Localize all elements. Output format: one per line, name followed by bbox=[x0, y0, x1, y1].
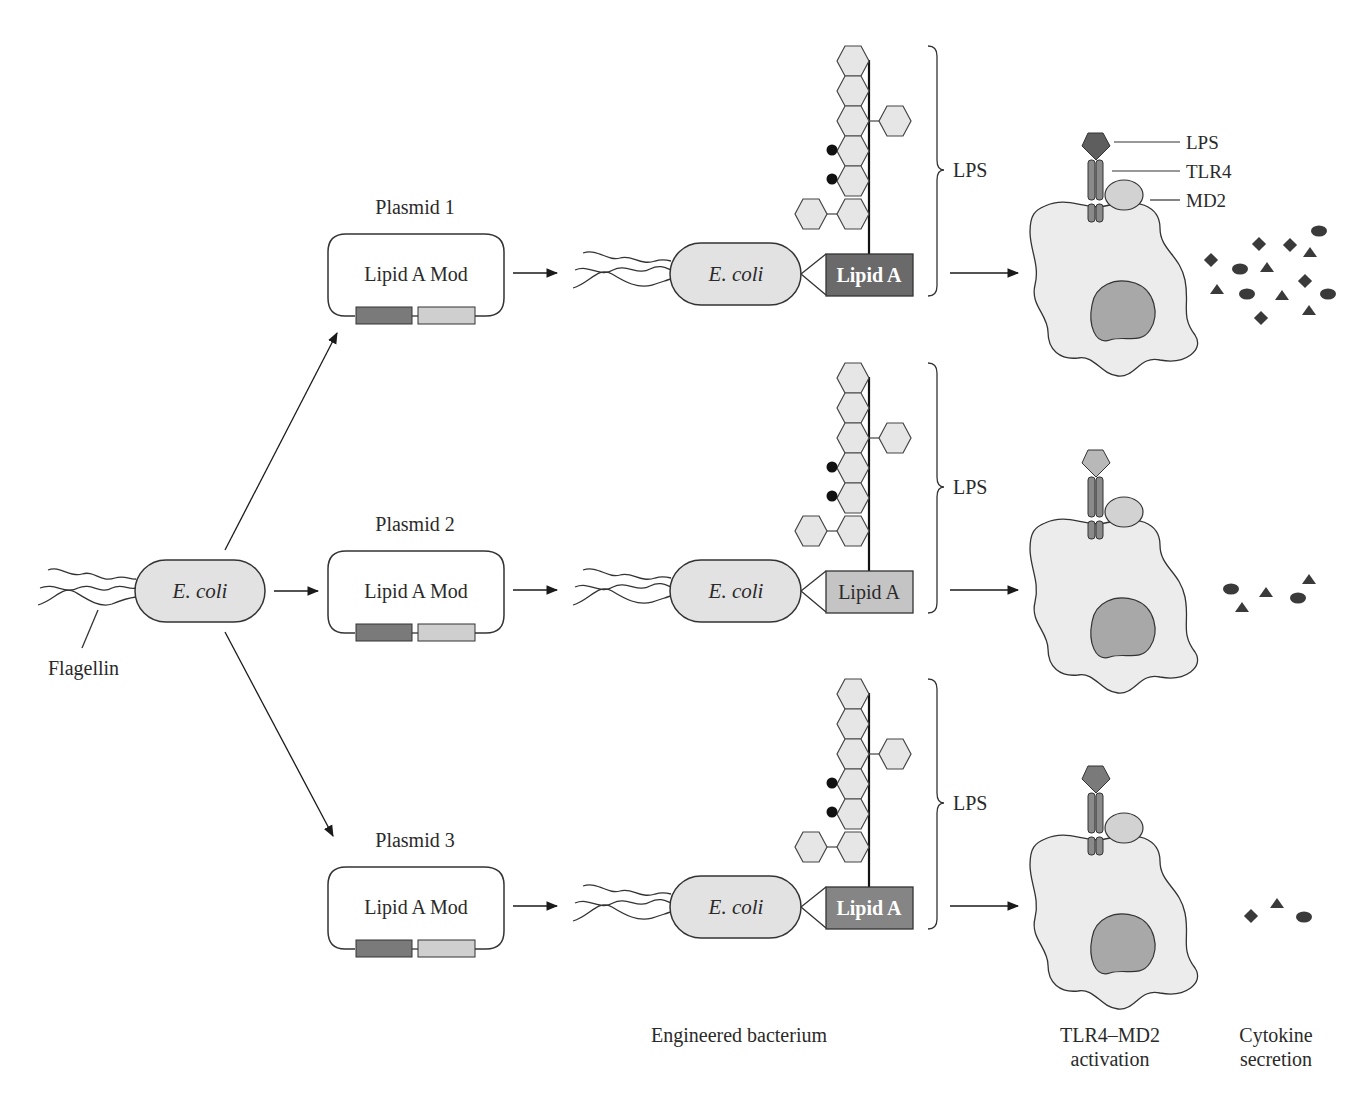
origin-ecoli: Flagellin E. coli bbox=[38, 560, 265, 680]
flagellin-label: Flagellin bbox=[48, 657, 119, 680]
membrane-connector bbox=[801, 887, 826, 928]
tlr4-receptor-icon bbox=[1088, 160, 1103, 222]
plasmid-gene-label: Lipid A Mod bbox=[364, 263, 467, 286]
membrane-connector bbox=[801, 571, 826, 612]
md2-icon bbox=[1105, 813, 1143, 843]
row-1: Plasmid 1 Lipid A Mod E. coli bbox=[328, 46, 1336, 376]
membrane-connector bbox=[801, 254, 826, 295]
engineered-bacterium-label: Engineered bacterium bbox=[651, 1024, 827, 1047]
plasmid-gene-dark bbox=[356, 940, 412, 957]
nucleus bbox=[1091, 598, 1155, 658]
row-3: Plasmid 3 Lipid A Mod E. coli bbox=[328, 679, 1312, 1009]
activation-label-line2: activation bbox=[1071, 1048, 1150, 1070]
plasmid-gene-dark bbox=[356, 624, 412, 641]
flagella-icon bbox=[573, 569, 671, 605]
nucleus bbox=[1091, 281, 1155, 341]
lps-oligosaccharide-icon bbox=[795, 46, 911, 229]
lps-brace bbox=[928, 363, 944, 613]
diagram-canvas: Flagellin E. coli Plasmid 1 Lipid A Mod … bbox=[0, 0, 1363, 1094]
lps-oligosaccharide-icon bbox=[795, 679, 911, 862]
cytokine-cluster-minimal bbox=[1244, 898, 1312, 923]
ecoli-label: E. coli bbox=[172, 579, 228, 603]
nucleus bbox=[1091, 914, 1155, 974]
lps-oligosaccharide-icon bbox=[795, 363, 911, 546]
cytokine-label-line2: secretion bbox=[1240, 1048, 1312, 1070]
lps-label: LPS bbox=[953, 792, 987, 814]
activation-label-line1: TLR4–MD2 bbox=[1060, 1024, 1160, 1046]
ecoli-label: E. coli bbox=[708, 262, 764, 286]
tlr4-receptor-icon bbox=[1088, 793, 1103, 855]
lps-ligand-icon bbox=[1082, 766, 1110, 793]
flagellin-pointer bbox=[82, 610, 98, 648]
lps-label: LPS bbox=[953, 476, 987, 498]
plasmid-gene-label: Lipid A Mod bbox=[364, 896, 467, 919]
ecoli-label: E. coli bbox=[708, 579, 764, 603]
ecoli-label: E. coli bbox=[708, 895, 764, 919]
lps-ligand-icon bbox=[1082, 450, 1110, 477]
lps-ligand-icon bbox=[1082, 133, 1110, 160]
cytokine-cluster-high bbox=[1204, 226, 1336, 326]
cytokine-cluster-low bbox=[1223, 574, 1316, 612]
receptor-label-lps: LPS bbox=[1186, 132, 1219, 153]
flagella-icon bbox=[38, 569, 136, 605]
plasmid-gene-label: Lipid A Mod bbox=[364, 580, 467, 603]
md2-icon bbox=[1105, 497, 1143, 527]
lps-brace bbox=[928, 679, 944, 929]
tlr4-receptor-icon bbox=[1088, 477, 1103, 539]
row-2: Plasmid 2 Lipid A Mod E. coli bbox=[328, 363, 1316, 693]
plasmid-title: Plasmid 3 bbox=[375, 829, 454, 851]
plasmid-gene-light bbox=[418, 307, 475, 324]
lps-label: LPS bbox=[953, 159, 987, 181]
lps-brace bbox=[928, 46, 944, 296]
cytokine-label-line1: Cytokine bbox=[1239, 1024, 1312, 1047]
lipid-a-label: Lipid A bbox=[836, 897, 902, 920]
receptor-label-tlr4: TLR4 bbox=[1186, 161, 1232, 182]
plasmid-gene-light bbox=[418, 624, 475, 641]
plasmid-gene-light bbox=[418, 940, 475, 957]
lipid-a-label: Lipid A bbox=[838, 581, 900, 604]
lipid-a-label: Lipid A bbox=[836, 264, 902, 287]
receptor-label-md2: MD2 bbox=[1186, 190, 1226, 211]
flagella-icon bbox=[573, 252, 671, 288]
plasmid-title: Plasmid 2 bbox=[375, 513, 454, 535]
md2-icon bbox=[1105, 180, 1143, 210]
plasmid-title: Plasmid 1 bbox=[375, 196, 454, 218]
flagella-icon bbox=[573, 885, 671, 921]
plasmid-gene-dark bbox=[356, 307, 412, 324]
